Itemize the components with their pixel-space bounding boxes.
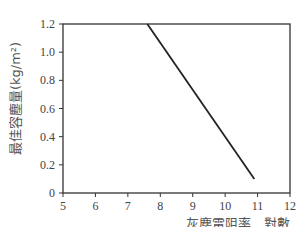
x-tick-label: 11 (252, 199, 264, 213)
x-tick-label: 7 (125, 199, 131, 213)
chart: 5678910111200.20.40.60.81.01.2灰塵電阻率 對數Lo… (0, 0, 305, 227)
x-tick-label: 10 (219, 199, 231, 213)
plot-frame (63, 24, 290, 193)
y-tick-label: 0.8 (40, 73, 55, 87)
x-tick-label: 6 (92, 199, 98, 213)
x-tick-label: 12 (284, 199, 296, 213)
data-line (147, 24, 254, 179)
y-tick-label: 0.6 (40, 102, 55, 116)
y-tick-label: 0.4 (40, 130, 55, 144)
x-axis-label: 灰塵電阻率 對數 (186, 216, 290, 227)
y-tick-label: 0 (49, 186, 55, 200)
x-tick-label: 8 (157, 199, 163, 213)
y-axis-label: 最佳容塵量(kg/m²) (8, 42, 23, 155)
x-tick-label: 5 (60, 199, 66, 213)
y-tick-label: 1.2 (40, 17, 55, 31)
x-tick-label: 9 (190, 199, 196, 213)
y-tick-label: 0.2 (40, 158, 55, 172)
y-tick-label: 1.0 (40, 45, 55, 59)
